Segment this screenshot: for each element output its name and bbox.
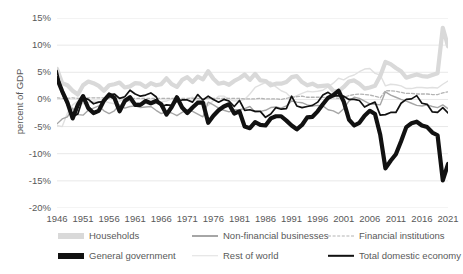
chart-legend: HouseholdsNon-financial businessesFinanc…: [0, 228, 461, 274]
legend-item-total[interactable]: Total domestic economy: [328, 250, 461, 261]
y-tick-label: -10%: [15, 149, 51, 159]
legend-item-nfb[interactable]: Non-financial businesses: [192, 230, 329, 241]
legend-swatch-govt: [58, 251, 84, 261]
legend-item-fin[interactable]: Financial institutions: [328, 230, 445, 241]
legend-label: Rest of world: [223, 250, 278, 261]
y-tick-label: -5%: [15, 122, 51, 132]
legend-item-govt[interactable]: General government: [58, 250, 176, 261]
legend-label: Households: [89, 230, 139, 241]
y-tick-label: -15%: [15, 176, 51, 186]
legend-label: Financial institutions: [359, 230, 445, 241]
x-tick-label: 2021: [433, 214, 463, 224]
legend-label: Non-financial businesses: [223, 230, 329, 241]
legend-swatch-row: [192, 251, 218, 261]
y-tick-label: -20%: [15, 203, 51, 213]
y-tick-label: 10%: [15, 40, 51, 50]
legend-label: General government: [89, 250, 176, 261]
plot-area: [57, 18, 448, 208]
y-tick-label: 0%: [15, 94, 51, 104]
legend-swatch-fin: [328, 231, 354, 241]
legend-item-row[interactable]: Rest of world: [192, 250, 278, 261]
legend-item-households[interactable]: Households: [58, 230, 139, 241]
y-tick-label: 15%: [15, 13, 51, 23]
legend-swatch-nfb: [192, 231, 218, 241]
legend-swatch-households: [58, 231, 84, 241]
legend-label: Total domestic economy: [359, 250, 461, 261]
y-tick-label: 5%: [15, 67, 51, 77]
plot-svg: [57, 18, 448, 208]
legend-swatch-total: [328, 251, 354, 261]
